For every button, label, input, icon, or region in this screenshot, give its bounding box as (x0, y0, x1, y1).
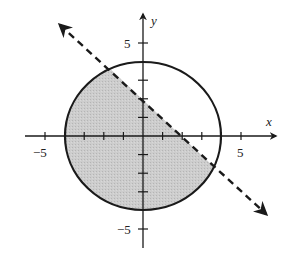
y-axis-label: y (149, 13, 157, 28)
x-tick-label-neg5: −5 (33, 145, 47, 160)
y-tick-label-pos5: 5 (124, 36, 131, 51)
x-tick-label-pos5: 5 (237, 145, 244, 160)
inequality-graph: x y −5 5 5 −5 (0, 0, 287, 256)
y-tick-label-neg5: −5 (117, 222, 131, 237)
x-axis-label: x (265, 114, 272, 129)
